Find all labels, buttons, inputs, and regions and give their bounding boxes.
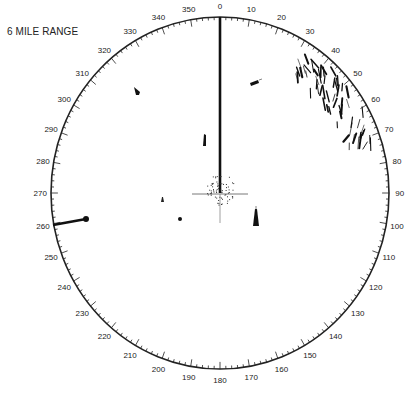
bearing-label-340: 340 <box>152 13 166 22</box>
bearing-label-150: 150 <box>303 351 317 360</box>
bearing-label-320: 320 <box>98 46 112 55</box>
bearing-label-280: 280 <box>36 157 50 166</box>
bearing-label-140: 140 <box>329 332 343 341</box>
bearing-label-10: 10 <box>247 5 256 14</box>
target-ne[interactable] <box>250 79 262 86</box>
bearing-label-50: 50 <box>353 69 362 78</box>
bearing-label-180: 180 <box>213 376 227 385</box>
bearing-label-30: 30 <box>305 27 314 36</box>
bearing-label-20: 20 <box>277 13 286 22</box>
bearing-label-250: 250 <box>44 253 58 262</box>
bearing-label-230: 230 <box>76 309 90 318</box>
bearing-label-160: 160 <box>275 365 289 374</box>
bearing-label-350: 350 <box>182 5 196 14</box>
bearing-label-130: 130 <box>351 309 365 318</box>
own-ship-center <box>192 194 248 223</box>
bearing-label-310: 310 <box>76 69 90 78</box>
bearing-label-190: 190 <box>182 373 196 382</box>
bearing-label-260: 260 <box>36 222 50 231</box>
bearing-label-300: 300 <box>58 95 72 104</box>
electronic-bearing-line[interactable] <box>53 216 89 225</box>
bearing-label-90: 90 <box>395 189 404 198</box>
bearing-label-170: 170 <box>245 373 259 382</box>
radar-scope: 0102030405060708090100110120130140150160… <box>0 0 419 398</box>
bearing-label-40: 40 <box>331 46 340 55</box>
bearing-label-270: 270 <box>34 189 48 198</box>
bearing-label-70: 70 <box>384 125 393 134</box>
bearing-label-330: 330 <box>123 27 137 36</box>
bearing-label-0: 0 <box>218 2 223 11</box>
target-small-west[interactable] <box>161 197 164 202</box>
target-southeast[interactable] <box>253 206 259 226</box>
bearing-label-220: 220 <box>98 332 112 341</box>
bearing-label-240: 240 <box>58 283 72 292</box>
bearing-label-100: 100 <box>390 222 404 231</box>
target-southwest[interactable] <box>178 217 182 221</box>
bearing-label-290: 290 <box>44 125 58 134</box>
bearing-label-60: 60 <box>371 95 380 104</box>
target-nw[interactable] <box>134 87 140 95</box>
bearing-label-120: 120 <box>369 283 383 292</box>
bearing-label-110: 110 <box>383 253 396 262</box>
bearing-label-200: 200 <box>152 365 166 374</box>
bearing-label-210: 210 <box>123 351 137 360</box>
target-near-heading[interactable] <box>203 134 206 146</box>
bearing-label-80: 80 <box>393 157 402 166</box>
